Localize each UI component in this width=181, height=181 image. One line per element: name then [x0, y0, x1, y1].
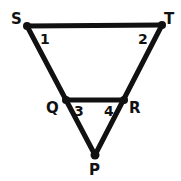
- segment-tp: [95, 25, 162, 155]
- segment-sp: [27, 26, 95, 155]
- vertex-label-r: R: [129, 99, 141, 117]
- vertex-label-p: P: [89, 161, 100, 179]
- angle-label-3: 3: [74, 103, 84, 119]
- vertex-point-q: [62, 96, 70, 104]
- segment-st: [27, 25, 162, 26]
- vertex-label-q: Q: [46, 99, 59, 117]
- geometry-diagram: S T Q R P 1 2 3 4: [0, 0, 181, 181]
- angle-label-4: 4: [104, 103, 114, 119]
- diagram-canvas: S T Q R P 1 2 3 4: [0, 0, 181, 181]
- vertex-label-t: T: [164, 10, 175, 28]
- angle-label-1: 1: [40, 31, 50, 47]
- vertex-point-p: [91, 151, 100, 160]
- angle-label-2: 2: [138, 31, 148, 47]
- vertex-label-s: S: [11, 10, 22, 28]
- vertex-point-r: [120, 96, 128, 104]
- vertex-point-s: [23, 22, 31, 30]
